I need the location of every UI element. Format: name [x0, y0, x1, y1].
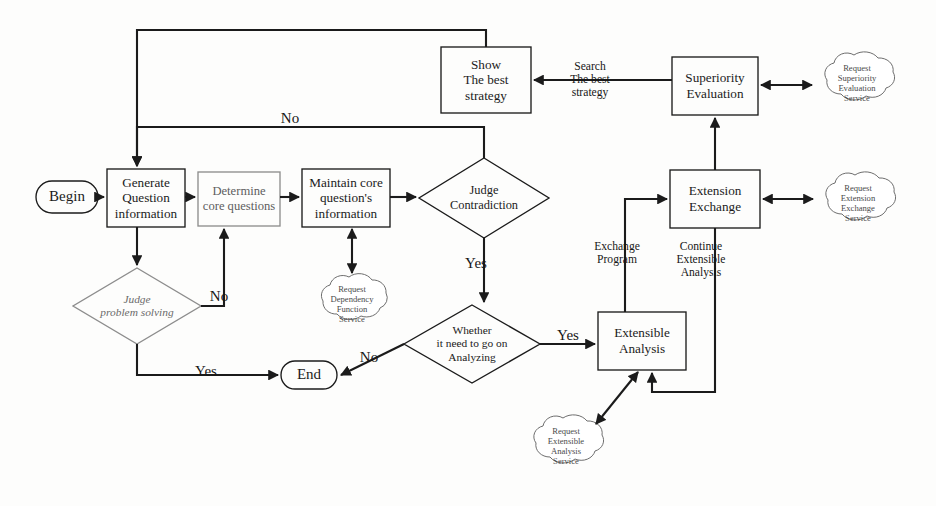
edge-continue-extensible-analysis	[652, 228, 715, 392]
node-judge-contradiction-shape	[419, 158, 549, 238]
flowchart-canvas: Begin Generate Question information Dete…	[0, 0, 936, 506]
edge-no-contradiction-to-generate	[137, 127, 484, 166]
edge-extensible-to-service-cloud	[596, 372, 638, 424]
node-determine-core-shape	[198, 172, 280, 226]
cloud-extension-service-shape	[826, 172, 896, 220]
node-superiority-evaluation-shape	[672, 57, 758, 115]
node-whether-go-on-shape	[404, 305, 540, 383]
edge-exchange-program	[625, 199, 667, 312]
node-end-shape	[281, 361, 337, 389]
edge-no-go-on-to-end	[341, 344, 404, 375]
node-extensible-analysis-shape	[598, 312, 686, 370]
cloud-superiority-service-shape	[825, 52, 895, 100]
edge-show-to-generate	[137, 30, 486, 166]
node-show-best-strategy-shape	[441, 47, 531, 113]
node-generate-question-shape	[107, 169, 185, 227]
node-maintain-core-shape	[302, 169, 390, 227]
cloud-dependency-function-shape	[321, 274, 387, 320]
flowchart-vector-layer	[0, 0, 936, 506]
node-judge-problem-solving-shape	[73, 268, 201, 344]
node-extension-exchange-shape	[670, 170, 760, 228]
cloud-extensible-service-shape	[534, 415, 604, 463]
node-begin-shape	[36, 181, 98, 213]
edge-no-to-determine	[201, 229, 224, 306]
edge-yes-to-end	[137, 344, 278, 375]
